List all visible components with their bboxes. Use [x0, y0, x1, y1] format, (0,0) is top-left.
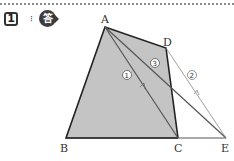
label-line-1: 1 [125, 72, 129, 80]
geometry-figure: 1 3 2 A B C D E [0, 0, 234, 161]
point-label-c: C [174, 142, 182, 155]
point-label-a: A [100, 13, 110, 26]
point-label-d: D [163, 36, 172, 49]
label-line-3: 3 [153, 60, 157, 68]
point-label-b: B [60, 142, 68, 155]
point-label-e: E [221, 142, 229, 155]
label-line-2: 2 [190, 72, 194, 80]
quadrilateral-abcd [66, 27, 178, 138]
